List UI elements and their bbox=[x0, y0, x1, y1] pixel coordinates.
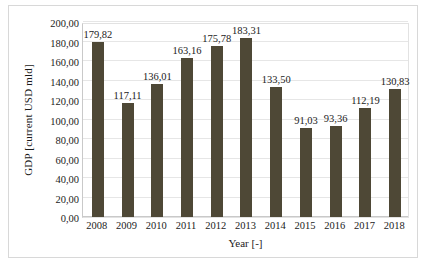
bar[interactable] bbox=[240, 38, 252, 217]
bar-series: 179,82117,11136,01163,16175,78183,31133,… bbox=[83, 24, 408, 217]
y-axis-tick-label: 100,00 bbox=[31, 115, 79, 126]
bar[interactable] bbox=[330, 126, 342, 217]
bar[interactable] bbox=[181, 58, 193, 217]
bar-slot: 136,01 bbox=[142, 24, 172, 217]
bar-value-label: 136,01 bbox=[143, 71, 172, 82]
gridline bbox=[83, 21, 408, 22]
bar-slot: 93,36 bbox=[321, 24, 351, 217]
bar-slot: 175,78 bbox=[202, 24, 232, 217]
bar[interactable] bbox=[270, 87, 282, 217]
x-axis-tick-label: 2016 bbox=[320, 220, 350, 231]
bar-value-label: 130,83 bbox=[381, 76, 410, 87]
bar-value-label: 175,78 bbox=[202, 33, 231, 44]
bar-value-label: 133,50 bbox=[262, 74, 291, 85]
bar-slot: 130,83 bbox=[380, 24, 410, 217]
bar-value-label: 117,11 bbox=[114, 90, 142, 101]
bar-slot: 112,19 bbox=[351, 24, 381, 217]
bar[interactable] bbox=[92, 42, 104, 217]
y-axis-tick-label: 0,00 bbox=[31, 213, 79, 224]
y-axis-tick-label: 120,00 bbox=[31, 96, 79, 107]
x-axis-tick-label: 2018 bbox=[379, 220, 409, 231]
bar[interactable] bbox=[211, 46, 223, 217]
x-axis-title: Year [-] bbox=[82, 237, 409, 249]
y-axis-tick-label: 60,00 bbox=[31, 154, 79, 165]
x-axis-tick-label: 2008 bbox=[82, 220, 112, 231]
y-axis-tick-label: 200,00 bbox=[31, 18, 79, 29]
bar-value-label: 112,19 bbox=[351, 95, 380, 106]
bar-slot: 133,50 bbox=[261, 24, 291, 217]
chart-figure: GDP [current USD mld] 0,0020,0040,0060,0… bbox=[8, 5, 418, 258]
y-axis-tick-label: 40,00 bbox=[31, 174, 79, 185]
y-axis-tick-label: 180,00 bbox=[31, 37, 79, 48]
bar-slot: 163,16 bbox=[172, 24, 202, 217]
x-axis-tick-label: 2013 bbox=[231, 220, 261, 231]
y-axis-tick-labels: 0,0020,0040,0060,0080,00100,00120,00140,… bbox=[31, 6, 79, 259]
bar-value-label: 91,03 bbox=[294, 115, 318, 126]
bar[interactable] bbox=[359, 108, 371, 217]
x-axis-tick-label: 2014 bbox=[260, 220, 290, 231]
bar-value-label: 163,16 bbox=[173, 45, 202, 56]
bar-slot: 179,82 bbox=[83, 24, 113, 217]
x-axis-tick-label: 2012 bbox=[201, 220, 231, 231]
x-axis-tick-label: 2015 bbox=[290, 220, 320, 231]
bar[interactable] bbox=[122, 103, 134, 217]
bar-value-label: 179,82 bbox=[83, 29, 112, 40]
x-axis-tick-label: 2009 bbox=[112, 220, 142, 231]
bar[interactable] bbox=[300, 128, 312, 217]
bar-value-label: 183,31 bbox=[232, 25, 261, 36]
y-axis-tick-label: 160,00 bbox=[31, 57, 79, 68]
y-axis-tick-label: 20,00 bbox=[31, 193, 79, 204]
x-axis-tick-label: 2010 bbox=[141, 220, 171, 231]
x-axis-tick-labels: 2008200920102011201220132014201520162017… bbox=[82, 220, 409, 236]
y-axis-tick-label: 140,00 bbox=[31, 76, 79, 87]
bar-slot: 183,31 bbox=[232, 24, 262, 217]
bar-slot: 117,11 bbox=[113, 24, 143, 217]
bar-value-label: 93,36 bbox=[324, 113, 348, 124]
bar[interactable] bbox=[389, 89, 401, 217]
y-axis-tick-label: 80,00 bbox=[31, 135, 79, 146]
bar[interactable] bbox=[151, 84, 163, 217]
bar-slot: 91,03 bbox=[291, 24, 321, 217]
x-axis-tick-label: 2011 bbox=[171, 220, 201, 231]
plot-area: 179,82117,11136,01163,16175,78183,31133,… bbox=[82, 23, 409, 218]
x-axis-tick-label: 2017 bbox=[350, 220, 380, 231]
